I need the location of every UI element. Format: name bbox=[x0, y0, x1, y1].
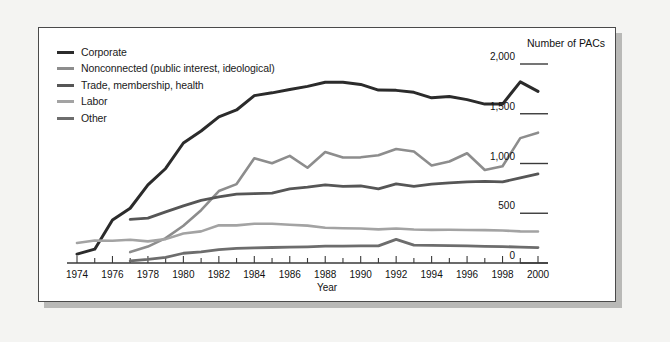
legend-swatch-labor bbox=[57, 100, 74, 103]
y-tick-label: 1,500 bbox=[490, 101, 515, 112]
chart-panel: Corporate Nonconnected (public interest,… bbox=[38, 27, 616, 302]
legend-label-corporate: Corporate bbox=[81, 47, 127, 58]
y-tick-label: 0 bbox=[509, 250, 515, 261]
x-tick-label: 1986 bbox=[279, 269, 301, 280]
figure-root: Corporate Nonconnected (public interest,… bbox=[0, 0, 670, 342]
legend-swatch-corporate bbox=[57, 51, 74, 54]
x-tick-label: 1978 bbox=[137, 269, 159, 280]
y-tick-label: 2,000 bbox=[490, 51, 515, 62]
legend-label-labor: Labor bbox=[81, 96, 107, 107]
y-axis-title: Number of PACs bbox=[527, 37, 605, 49]
x-tick-label: 1996 bbox=[456, 269, 478, 280]
x-axis-title: Year bbox=[39, 282, 615, 293]
chart-legend: Corporate Nonconnected (public interest,… bbox=[57, 44, 387, 127]
x-tick-label: 1998 bbox=[491, 269, 513, 280]
x-tick-label: 1982 bbox=[208, 269, 230, 280]
x-tick-label: 1976 bbox=[101, 269, 123, 280]
legend-item-labor: Labor bbox=[57, 94, 387, 111]
x-tick-label: 1988 bbox=[314, 269, 336, 280]
legend-item-other: Other bbox=[57, 110, 387, 127]
x-tick-label: 1990 bbox=[350, 269, 372, 280]
x-tick-label: 1984 bbox=[243, 269, 265, 280]
legend-item-trade: Trade, membership, health bbox=[57, 77, 387, 94]
legend-label-nonconnected: Nonconnected (public interest, ideologic… bbox=[81, 63, 275, 74]
x-tick-label: 2000 bbox=[527, 269, 549, 280]
y-tick-label: 500 bbox=[498, 200, 515, 211]
legend-swatch-trade bbox=[57, 84, 74, 87]
legend-item-corporate: Corporate bbox=[57, 44, 387, 61]
legend-swatch-nonconnected bbox=[57, 67, 74, 70]
x-tick-label: 1994 bbox=[420, 269, 442, 280]
x-tick-label: 1992 bbox=[385, 269, 407, 280]
legend-swatch-other bbox=[57, 117, 74, 120]
legend-label-other: Other bbox=[81, 113, 107, 124]
y-tick-label: 1,000 bbox=[490, 151, 515, 162]
x-tick-label: 1980 bbox=[172, 269, 194, 280]
x-tick-label: 1974 bbox=[66, 269, 88, 280]
legend-item-nonconnected: Nonconnected (public interest, ideologic… bbox=[57, 61, 387, 78]
legend-label-trade: Trade, membership, health bbox=[81, 80, 204, 91]
